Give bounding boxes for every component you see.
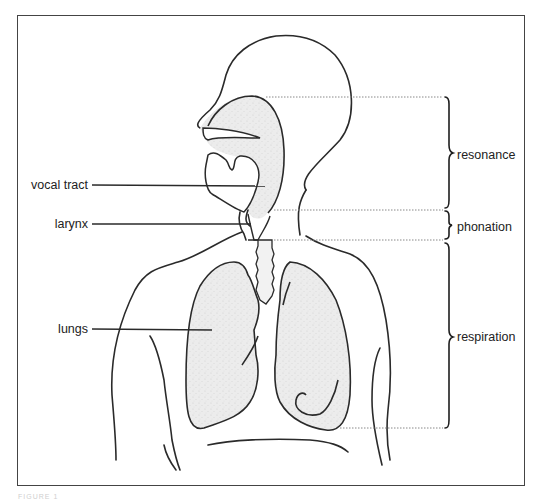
label-resonance: resonance: [457, 149, 515, 162]
speech-anatomy-diagram: [0, 0, 540, 503]
label-respiration: respiration: [457, 331, 515, 344]
resonance-brace: [445, 97, 453, 208]
label-lungs: lungs: [58, 323, 88, 336]
left-lung: [186, 262, 259, 428]
right-lung: [275, 262, 351, 430]
label-larynx: larynx: [55, 218, 88, 231]
lungs-leader: [92, 329, 212, 330]
label-vocal-tract: vocal tract: [31, 179, 88, 192]
label-phonation: phonation: [457, 221, 512, 234]
vocal-tract-leader: [92, 185, 265, 186]
vocal-tract-shading: [200, 96, 284, 219]
figure-caption: FIGURE 1: [18, 493, 58, 500]
phonation-brace: [445, 211, 452, 239]
respiration-brace: [445, 243, 453, 428]
braces: [445, 97, 453, 428]
